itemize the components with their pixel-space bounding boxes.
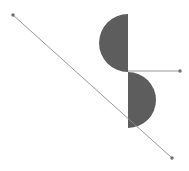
figure-svg: [0, 0, 189, 171]
figure-canvas: [0, 0, 189, 171]
point-diagonal-start: [11, 13, 14, 16]
point-horizontal-end: [178, 69, 181, 72]
canvas-background: [0, 0, 189, 171]
point-diagonal-end: [170, 156, 173, 159]
